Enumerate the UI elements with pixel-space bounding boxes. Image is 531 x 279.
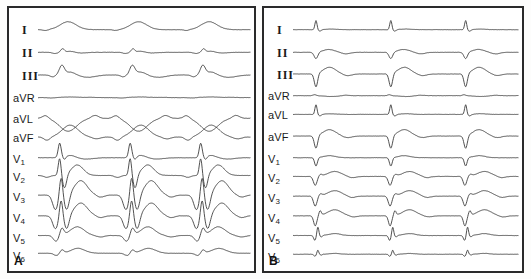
ecg-trace-avr <box>39 97 251 98</box>
ecg-trace-v6 <box>294 250 519 256</box>
lead-label-v2: V2 <box>13 172 25 183</box>
ecg-trace-iii <box>39 65 251 77</box>
lead-label-v3: V3 <box>13 192 25 203</box>
lead-label-ii: II <box>277 47 288 59</box>
panel-letter-a: A <box>14 255 23 267</box>
ecg-trace-avr <box>294 95 519 97</box>
lead-label-i: I <box>22 24 28 36</box>
lead-label-iii: III <box>22 70 39 82</box>
panel-letter-b: B <box>269 255 278 267</box>
lead-label-v2: V2 <box>268 173 280 184</box>
lead-label-v4: V4 <box>268 213 280 224</box>
ecg-trace-i <box>39 22 251 31</box>
ecg-traces-panel-a <box>9 8 254 271</box>
lead-label-avl: aVL <box>268 110 288 121</box>
lead-label-v3: V3 <box>268 193 280 204</box>
ecg-trace-avf <box>39 125 251 140</box>
ecg-trace-v5 <box>39 227 251 241</box>
lead-label-avl: aVL <box>13 114 33 125</box>
lead-label-iii: III <box>277 69 294 81</box>
lead-label-ii: II <box>22 47 33 59</box>
ecg-figure: IIIIIIaVRaVLaVFV1V2V3V4V5V6 A IIIIIIaVRa… <box>0 0 531 279</box>
lead-label-avf: aVF <box>13 133 34 144</box>
ecg-panel-b: IIIIIIaVRaVLaVFV1V2V3V4V5V6 B <box>262 6 524 273</box>
lead-label-avr: aVR <box>268 91 290 102</box>
lead-label-v4: V4 <box>13 213 25 224</box>
lead-label-v1: V1 <box>13 154 25 165</box>
lead-label-v5: V5 <box>268 233 280 244</box>
ecg-trace-v1 <box>39 143 251 159</box>
lead-label-i: I <box>277 24 283 36</box>
ecg-trace-avl <box>294 105 519 116</box>
ecg-trace-v6 <box>39 248 251 255</box>
lead-label-v1: V1 <box>268 154 280 165</box>
ecg-trace-v4 <box>39 201 251 229</box>
lead-label-avf: aVF <box>268 132 289 143</box>
ecg-trace-v4 <box>294 210 519 226</box>
ecg-trace-i <box>294 21 519 32</box>
lead-label-avr: aVR <box>13 93 35 104</box>
ecg-trace-v2 <box>294 171 519 185</box>
ecg-trace-v3 <box>294 191 519 206</box>
ecg-trace-v5 <box>294 227 519 240</box>
ecg-traces-panel-b <box>264 8 522 271</box>
ecg-trace-avf <box>294 130 519 149</box>
ecg-trace-ii <box>294 49 519 58</box>
ecg-trace-v2 <box>39 159 251 188</box>
ecg-trace-iii <box>294 67 519 87</box>
ecg-trace-ii <box>39 49 251 54</box>
lead-label-v5: V5 <box>13 233 25 244</box>
ecg-panel-a: IIIIIIaVRaVLaVFV1V2V3V4V5V6 A <box>7 6 256 273</box>
ecg-trace-v1 <box>294 156 519 167</box>
